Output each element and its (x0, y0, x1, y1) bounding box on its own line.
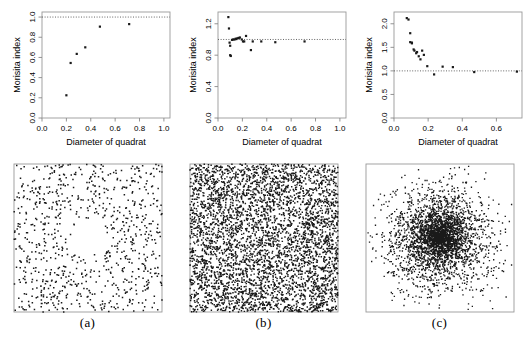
svg-text:0.5: 0.5 (380, 88, 389, 100)
svg-text:0.0: 0.0 (380, 112, 389, 124)
chart-a-wrapper: 0.00.20.40.60.81.00.00.20.40.60.81.0Diam… (0, 0, 175, 158)
svg-text:0.8: 0.8 (28, 31, 37, 43)
svg-text:0.2: 0.2 (28, 92, 37, 104)
point-pattern-b (176, 158, 351, 318)
svg-text:Diameter of quadrat: Diameter of quadrat (242, 137, 322, 147)
svg-text:0.4: 0.4 (85, 124, 97, 133)
svg-text:0.4: 0.4 (261, 124, 273, 133)
svg-text:Morisita index: Morisita index (364, 37, 374, 93)
svg-text:Morisita index: Morisita index (188, 37, 198, 93)
svg-text:0.2: 0.2 (237, 124, 249, 133)
point-pattern-a (0, 158, 175, 318)
chart-b-wrapper: 0.00.20.40.60.81.00.00.40.81.2Diameter o… (176, 0, 351, 158)
svg-text:0.0: 0.0 (388, 124, 400, 133)
figure-morisita-index: 0.00.20.40.60.81.00.00.20.40.60.81.0Diam… (0, 0, 527, 341)
scatter-chart-a: 0.00.20.40.60.81.00.00.20.40.60.81.0Diam… (0, 0, 175, 158)
svg-text:0.6: 0.6 (286, 124, 298, 133)
point-pattern-a-wrapper (0, 158, 175, 318)
panel-label-b: (b) (176, 315, 351, 331)
svg-text:0.6: 0.6 (110, 124, 122, 133)
scatter-chart-c: 0.00.20.40.60.00.51.01.52.0Diameter of q… (352, 0, 527, 158)
svg-text:0.2: 0.2 (423, 124, 435, 133)
svg-text:1.2: 1.2 (204, 18, 213, 30)
svg-text:Diameter of quadrat: Diameter of quadrat (66, 137, 146, 147)
svg-text:0.6: 0.6 (28, 51, 37, 63)
svg-text:0.0: 0.0 (36, 124, 48, 133)
svg-text:0.6: 0.6 (491, 124, 503, 133)
chart-c-wrapper: 0.00.20.40.60.00.51.01.52.0Diameter of q… (352, 0, 527, 158)
panel-a: 0.00.20.40.60.81.00.00.20.40.60.81.0Diam… (0, 0, 175, 341)
svg-text:1.0: 1.0 (158, 124, 170, 133)
point-pattern-c-wrapper (352, 158, 527, 318)
panel-label-c: (c) (352, 315, 527, 331)
svg-text:0.0: 0.0 (204, 112, 213, 124)
svg-text:1.0: 1.0 (28, 11, 37, 23)
svg-text:1.0: 1.0 (334, 124, 346, 133)
svg-text:0.4: 0.4 (457, 124, 469, 133)
svg-text:2.0: 2.0 (380, 18, 389, 30)
svg-text:0.4: 0.4 (204, 80, 213, 92)
panel-b: 0.00.20.40.60.81.00.00.40.81.2Diameter o… (176, 0, 351, 341)
svg-text:0.8: 0.8 (134, 124, 146, 133)
point-pattern-b-wrapper (176, 158, 351, 318)
svg-text:0.4: 0.4 (28, 72, 37, 84)
svg-text:0.2: 0.2 (61, 124, 73, 133)
svg-text:Morisita index: Morisita index (12, 37, 22, 93)
svg-text:1.5: 1.5 (380, 41, 389, 53)
svg-text:0.0: 0.0 (212, 124, 224, 133)
svg-text:Diameter of quadrat: Diameter of quadrat (418, 137, 498, 147)
point-pattern-c (352, 158, 527, 318)
panel-label-a: (a) (0, 315, 175, 331)
svg-text:0.8: 0.8 (204, 49, 213, 61)
svg-text:0.0: 0.0 (28, 112, 37, 124)
panel-c: 0.00.20.40.60.00.51.01.52.0Diameter of q… (352, 0, 527, 341)
svg-text:0.8: 0.8 (310, 124, 322, 133)
scatter-chart-b: 0.00.20.40.60.81.00.00.40.81.2Diameter o… (176, 0, 351, 158)
svg-text:1.0: 1.0 (380, 65, 389, 77)
